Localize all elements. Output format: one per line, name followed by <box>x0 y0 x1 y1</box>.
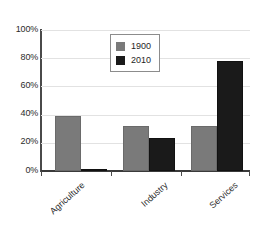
bar-services-2010 <box>217 61 243 171</box>
legend-label-1900: 1900 <box>131 41 151 51</box>
y-tick-label-40: 40% <box>4 109 38 118</box>
bar-agriculture-2010 <box>81 169 107 171</box>
bar-chart: 100% 80% 60% 40% 20% 0% Agriculture Indu… <box>0 0 261 226</box>
y-tick-label-60: 60% <box>4 81 38 90</box>
x-axis-tick-0 <box>41 171 42 176</box>
legend: 1900 2010 <box>110 34 160 72</box>
y-tick-label-0: 0% <box>4 166 38 175</box>
y-tick-label-20: 20% <box>4 137 38 146</box>
x-axis-tick-3 <box>249 171 250 176</box>
x-axis-tick-1 <box>111 171 112 176</box>
x-tick-label-services: Services <box>170 180 240 226</box>
bar-agriculture-1900 <box>55 116 81 171</box>
y-axis-tick-labels: 100% 80% 60% 40% 20% 0% <box>0 0 38 226</box>
bar-industry-2010 <box>149 138 175 171</box>
legend-label-2010: 2010 <box>131 55 151 65</box>
legend-item-2010: 2010 <box>116 53 151 67</box>
legend-swatch-icon-2010 <box>116 56 125 65</box>
y-tick-label-100: 100% <box>4 25 38 34</box>
gridline-100 <box>41 30 250 31</box>
y-tick-label-80: 80% <box>4 53 38 62</box>
bar-services-1900 <box>191 126 217 171</box>
legend-swatch-icon-1900 <box>116 42 125 51</box>
bar-industry-1900 <box>123 126 149 171</box>
legend-item-1900: 1900 <box>116 39 151 53</box>
x-tick-label-industry: Industry <box>100 180 170 226</box>
x-axis-tick-2 <box>181 171 182 176</box>
